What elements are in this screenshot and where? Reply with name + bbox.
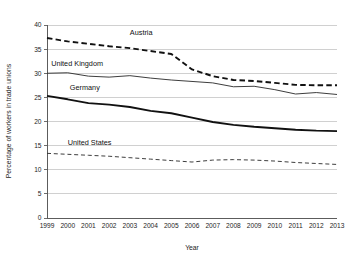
x-tick-label-2009: 2009: [247, 222, 262, 229]
x-tick-label-2010: 2010: [268, 222, 283, 229]
series-label-united-states: United States: [68, 138, 112, 147]
y-tick-label-0: 0: [38, 214, 42, 221]
series-label-united-kingdom: United Kingdom: [51, 59, 103, 68]
x-axis-title: Year: [185, 244, 199, 251]
y-tick-label-20: 20: [34, 118, 42, 125]
y-tick-label-30: 30: [34, 70, 42, 77]
x-tick-label-2008: 2008: [226, 222, 241, 229]
x-tick-label-2007: 2007: [205, 222, 220, 229]
x-tick-label-2005: 2005: [164, 222, 179, 229]
y-tick-label-5: 5: [38, 190, 42, 197]
series-label-germany: Germany: [70, 83, 100, 92]
y-axis-title: Percentage of workers in trade unions: [5, 63, 13, 178]
x-axis-tick-labels: 1999200020012002200320042005200620072008…: [40, 222, 345, 229]
x-tick-label-2001: 2001: [81, 222, 96, 229]
x-tick-label-2004: 2004: [143, 222, 158, 229]
y-tick-label-10: 10: [34, 166, 42, 173]
x-tick-label-2011: 2011: [288, 222, 303, 229]
x-tick-label-2000: 2000: [60, 222, 75, 229]
y-tick-label-25: 25: [34, 94, 42, 101]
x-tick-label-1999: 1999: [40, 222, 55, 229]
x-tick-label-2006: 2006: [185, 222, 200, 229]
x-tick-label-2003: 2003: [123, 222, 138, 229]
y-tick-label-35: 35: [34, 46, 42, 53]
x-tick-label-2013: 2013: [330, 222, 345, 229]
x-tick-label-2002: 2002: [102, 222, 117, 229]
line-chart: 0510152025303540 19992000200120022003200…: [0, 0, 353, 258]
x-tick-label-2012: 2012: [309, 222, 324, 229]
series-label-austria: Austria: [130, 28, 154, 37]
chart-canvas: 0510152025303540 19992000200120022003200…: [0, 0, 353, 258]
y-tick-label-15: 15: [34, 142, 42, 149]
y-tick-label-40: 40: [34, 21, 42, 28]
